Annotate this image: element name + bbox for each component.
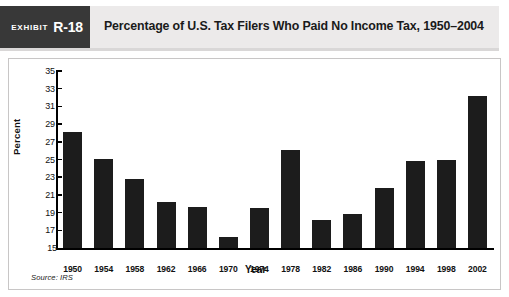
x-axis-line bbox=[56, 248, 494, 250]
y-tick-15: 15 bbox=[47, 243, 57, 253]
y-tick-label: 31 bbox=[45, 101, 55, 111]
y-axis-label: Percent bbox=[11, 119, 22, 155]
exhibit-tag: Exhibit R-18 bbox=[0, 6, 90, 48]
exhibit-number-label: R-18 bbox=[53, 19, 83, 35]
y-tick-label: 35 bbox=[45, 66, 55, 76]
y-tick-29: 29 bbox=[45, 119, 57, 129]
plot-area: 1517192123252729313335 19501954195819621… bbox=[57, 71, 493, 248]
bar-1970 bbox=[219, 237, 238, 248]
y-tick-label: 25 bbox=[45, 155, 55, 165]
bar-1986 bbox=[343, 214, 362, 249]
bar-1962 bbox=[157, 202, 176, 248]
y-tick-label: 23 bbox=[45, 172, 55, 182]
bar-1978 bbox=[281, 150, 300, 248]
y-tick-label: 27 bbox=[45, 137, 55, 147]
y-tick-19: 19 bbox=[45, 208, 57, 218]
exhibit-title-container: Percentage of U.S. Tax Filers Who Paid N… bbox=[90, 6, 499, 48]
bar-1990 bbox=[375, 188, 394, 248]
bar-1958 bbox=[125, 179, 144, 248]
exhibit-header: Exhibit R-18 Percentage of U.S. Tax File… bbox=[0, 6, 499, 48]
chart-panel: Percent 1517192123252729313335 195019541… bbox=[8, 58, 501, 290]
page-title: Percentage of U.S. Tax Filers Who Paid N… bbox=[104, 19, 484, 34]
y-tick-label: 21 bbox=[45, 190, 55, 200]
y-tick-label: 19 bbox=[45, 208, 55, 218]
bar-1994 bbox=[406, 161, 425, 248]
y-tick-21: 21 bbox=[45, 190, 57, 200]
y-tick-label: 15 bbox=[47, 243, 57, 253]
y-tick-35: 35 bbox=[45, 66, 57, 76]
y-tick-label: 33 bbox=[45, 84, 55, 94]
bar-2002 bbox=[468, 96, 487, 248]
y-tick-33: 33 bbox=[45, 84, 57, 94]
bar-1998 bbox=[437, 160, 456, 249]
y-tick-25: 25 bbox=[45, 155, 57, 165]
y-tick-23: 23 bbox=[45, 172, 57, 182]
y-tick-17: 17 bbox=[45, 225, 57, 235]
chart-plot-wrapper: Percent 1517192123252729313335 195019541… bbox=[9, 59, 502, 291]
bar-1950 bbox=[63, 132, 82, 248]
y-tick-31: 31 bbox=[45, 101, 57, 111]
bar-1982 bbox=[312, 220, 331, 248]
bar-1954 bbox=[94, 159, 113, 248]
bar-series bbox=[57, 71, 493, 248]
y-tick-27: 27 bbox=[45, 137, 57, 147]
y-tick-label: 17 bbox=[45, 225, 55, 235]
bar-1966 bbox=[188, 207, 207, 248]
source-note: Source: IRS bbox=[31, 273, 73, 282]
x-axis-label: Year bbox=[9, 264, 502, 275]
exhibit-word-label: Exhibit bbox=[11, 23, 48, 32]
bar-1974 bbox=[250, 208, 269, 248]
exhibit-page: Exhibit R-18 Percentage of U.S. Tax File… bbox=[0, 0, 509, 297]
y-tick-label: 29 bbox=[45, 119, 55, 129]
